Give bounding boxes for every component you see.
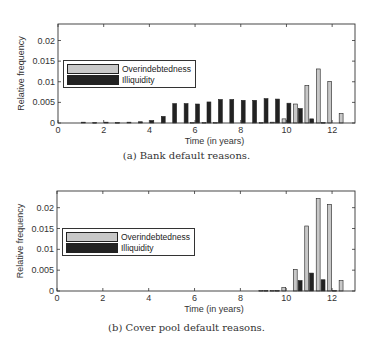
y-tick-label: 0.01	[36, 244, 54, 254]
bar-illiquidity	[230, 99, 234, 123]
legend-label: Illiquidity	[121, 243, 154, 253]
bar-illiquidity	[207, 102, 211, 123]
bar-overindebtedness	[282, 288, 286, 291]
x-tick-label: 10	[281, 293, 291, 303]
legend: Overindebtedness Illiquidity	[63, 60, 196, 88]
legend-item-illiquidity: Illiquidity	[67, 74, 191, 85]
bar-overindebtedness	[339, 281, 343, 291]
y-tick-label: 0.005	[31, 265, 54, 275]
caption: (a) Bank default reasons.	[0, 150, 373, 161]
legend-item-overindebtedness: Overindebtedness	[67, 63, 191, 74]
bar-illiquidity	[253, 100, 257, 123]
bar-overindebtedness	[316, 69, 320, 123]
x-axis-label: Time (in years)	[184, 304, 244, 314]
bank-default-chart: 02468101200.0050.010.0150.02Time (in yea…	[0, 0, 373, 170]
legend-swatch-overindebtedness	[66, 232, 118, 242]
legend-item-illiquidity: Illiquidity	[66, 242, 190, 253]
legend-item-overindebtedness: Overindebtedness	[66, 231, 190, 242]
y-tick-label: 0.015	[32, 56, 55, 66]
legend-label: Overindebtedness	[122, 64, 191, 74]
y-axis-label: Relative frequency	[16, 36, 26, 111]
x-tick-label: 4	[146, 293, 151, 303]
legend-swatch-overindebtedness	[67, 64, 119, 74]
legend-swatch-illiquidity	[67, 75, 119, 85]
x-tick-label: 10	[281, 125, 291, 135]
x-tick-label: 0	[55, 125, 60, 135]
y-tick-label: 0.01	[37, 77, 55, 87]
bar-overindebtedness	[328, 204, 332, 291]
bar-overindebtedness	[293, 269, 297, 291]
y-tick-label: 0	[49, 286, 54, 296]
bar-illiquidity	[173, 104, 177, 123]
bar-illiquidity	[298, 281, 302, 291]
bar-overindebtedness	[339, 114, 343, 123]
bar-overindebtedness	[316, 199, 320, 292]
x-tick-label: 2	[100, 293, 105, 303]
bar-illiquidity	[196, 104, 200, 123]
x-tick-label: 0	[54, 293, 59, 303]
x-tick-label: 12	[327, 293, 337, 303]
bar-illiquidity	[276, 99, 280, 123]
cover-pool-default-chart: 02468101200.0050.010.0150.02Time (in yea…	[0, 168, 373, 344]
x-tick-label: 8	[238, 125, 243, 135]
bar-illiquidity	[298, 109, 302, 123]
x-tick-label: 8	[238, 293, 243, 303]
bar-overindebtedness	[294, 104, 298, 123]
bar-illiquidity	[218, 99, 222, 123]
x-tick-label: 4	[147, 125, 152, 135]
x-tick-label: 2	[101, 125, 106, 135]
x-tick-label: 6	[193, 125, 198, 135]
caption: (b) Cover pool default reasons.	[0, 322, 373, 333]
bar-illiquidity	[241, 100, 245, 123]
y-tick-label: 0.015	[31, 224, 54, 234]
bar-overindebtedness	[305, 226, 309, 291]
bar-overindebtedness	[305, 85, 309, 123]
bar-illiquidity	[287, 103, 291, 123]
y-tick-label: 0.02	[36, 203, 54, 213]
bar-illiquidity	[184, 104, 188, 123]
legend-label: Illiquidity	[122, 75, 155, 85]
bar-illiquidity	[321, 280, 325, 291]
bar-overindebtedness	[282, 119, 286, 123]
y-tick-label: 0.02	[37, 36, 55, 46]
x-tick-label: 12	[327, 125, 337, 135]
x-tick-label: 6	[192, 293, 197, 303]
y-tick-label: 0.005	[32, 97, 55, 107]
bar-illiquidity	[264, 99, 268, 123]
bar-illiquidity	[161, 116, 165, 123]
bar-illiquidity	[310, 273, 314, 291]
y-axis-label: Relative frequency	[15, 203, 25, 278]
legend-label: Overindebtedness	[121, 232, 190, 242]
x-axis-label: Time (in years)	[185, 136, 245, 146]
legend: Overindebtedness Illiquidity	[62, 228, 195, 256]
bar-overindebtedness	[328, 81, 332, 123]
y-tick-label: 0	[50, 118, 55, 128]
legend-swatch-illiquidity	[66, 243, 118, 253]
bar-illiquidity	[310, 119, 314, 123]
